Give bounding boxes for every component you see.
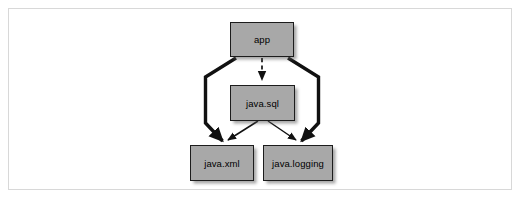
node-app-label: app xyxy=(254,34,270,45)
edge-java-sql-to-java-logging xyxy=(268,121,296,140)
edge-java-sql-to-java-xml xyxy=(228,121,258,140)
node-java-xml-label: java.xml xyxy=(204,158,240,169)
node-java-sql-label: java.sql xyxy=(246,98,279,109)
node-java-logging-label: java.logging xyxy=(272,158,324,169)
figure-container: app java.sql java.xml java.logging xyxy=(0,0,522,205)
node-app: app xyxy=(230,22,294,57)
node-java-sql: java.sql xyxy=(230,85,295,121)
node-java-xml: java.xml xyxy=(190,145,254,181)
node-java-logging: java.logging xyxy=(263,145,333,181)
